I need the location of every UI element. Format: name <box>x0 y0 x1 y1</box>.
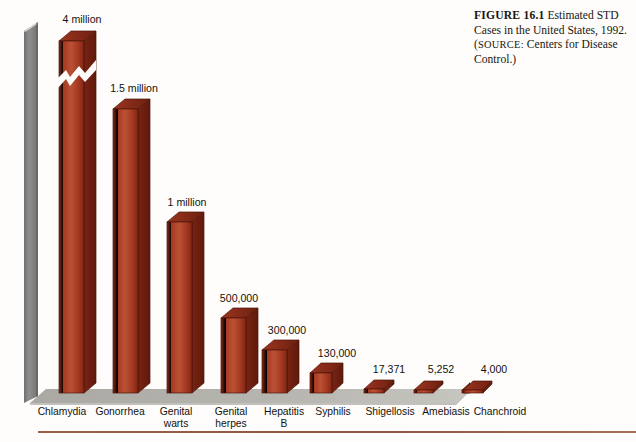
bar-hepatitis-b <box>262 340 299 393</box>
category-label-chanchroid: Chanchroid <box>474 406 527 418</box>
bar-gonorrhea <box>113 99 150 393</box>
chart-canvas <box>0 0 470 442</box>
category-label-shigellosis: Shigellosis <box>365 406 414 418</box>
category-label-line2: B <box>264 418 304 430</box>
category-label-line2: herpes <box>215 418 248 430</box>
figure-16-1: FIGURE 16.1 Estimated STD Cases in the U… <box>0 0 636 442</box>
value-label-amebiasis: 5,252 <box>428 363 455 375</box>
category-label-line1: Syphilis <box>315 406 350 417</box>
category-label-line2: warts <box>160 418 193 430</box>
value-label-gonorrhea: 1.5 million <box>110 82 158 94</box>
category-label-line1: Genital <box>160 406 193 417</box>
bar-chlamydia <box>58 31 96 393</box>
category-label-genital-warts: Genital warts <box>160 406 193 429</box>
bar-genital-warts <box>167 212 204 393</box>
value-label-chlamydia: 4 million <box>63 13 102 25</box>
bottom-divider-rule <box>38 431 636 433</box>
category-label-line1: Chlamydia <box>38 406 87 417</box>
value-label-chanchroid: 4,000 <box>481 363 508 375</box>
category-label-line1: Shigellosis <box>365 406 414 417</box>
category-label-line1: Amebiasis <box>422 406 470 417</box>
value-label-shigellosis: 17,371 <box>373 363 405 375</box>
value-label-genital-herpes: 500,000 <box>220 292 258 304</box>
category-label-line1: Chanchroid <box>474 406 527 417</box>
category-label-hepatitis-b: Hepatitis B <box>264 406 304 429</box>
category-label-line1: Hepatitis <box>264 406 304 417</box>
y-axis-wall <box>24 22 39 403</box>
category-label-line1: Gonorrhea <box>95 406 144 417</box>
category-label-gonorrhea: Gonorrhea <box>95 406 144 418</box>
bar-chanchroid-overflow <box>464 381 492 393</box>
bar-genital-herpes <box>221 308 258 393</box>
category-label-syphilis: Syphilis <box>315 406 350 418</box>
value-label-syphilis: 130,000 <box>318 347 356 359</box>
value-label-genital-warts: 1 million <box>168 196 207 208</box>
bar-syphilis <box>310 363 343 393</box>
category-label-amebiasis: Amebiasis <box>422 406 470 418</box>
chart-canvas-overflow <box>440 0 530 442</box>
value-label-hepatitis-b: 300,000 <box>268 324 306 336</box>
bar-chart: 4 million 1.5 million 1 million 500,000 … <box>0 0 470 442</box>
category-label-line1: Genital <box>215 406 248 417</box>
category-label-chlamydia: Chlamydia <box>38 406 87 418</box>
category-label-genital-herpes: Genital herpes <box>215 406 248 429</box>
chart-floor <box>30 389 470 405</box>
